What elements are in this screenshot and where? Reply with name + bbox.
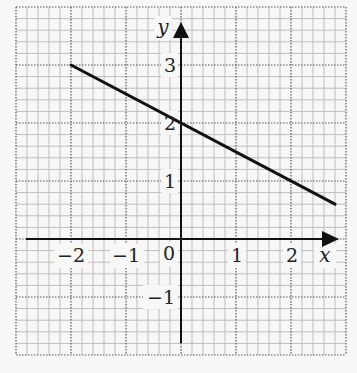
y-tick-label: 3 [164,54,176,76]
y-axis-label: y [156,15,169,39]
y-tick-label: 1 [164,170,176,192]
x-tick-label: −1 [112,244,140,266]
origin-label: 0 [163,242,175,264]
coordinate-plane: −2 −1 0 1 2 x 3 2 1 −1 y [0,0,357,373]
y-tick-label: −1 [147,286,175,308]
x-tick-label: 1 [231,244,243,266]
x-tick-label: −2 [57,244,85,266]
x-tick-label: 2 [286,244,298,266]
x-axis-label: x [319,243,330,267]
y-tick-label: 2 [164,112,176,134]
